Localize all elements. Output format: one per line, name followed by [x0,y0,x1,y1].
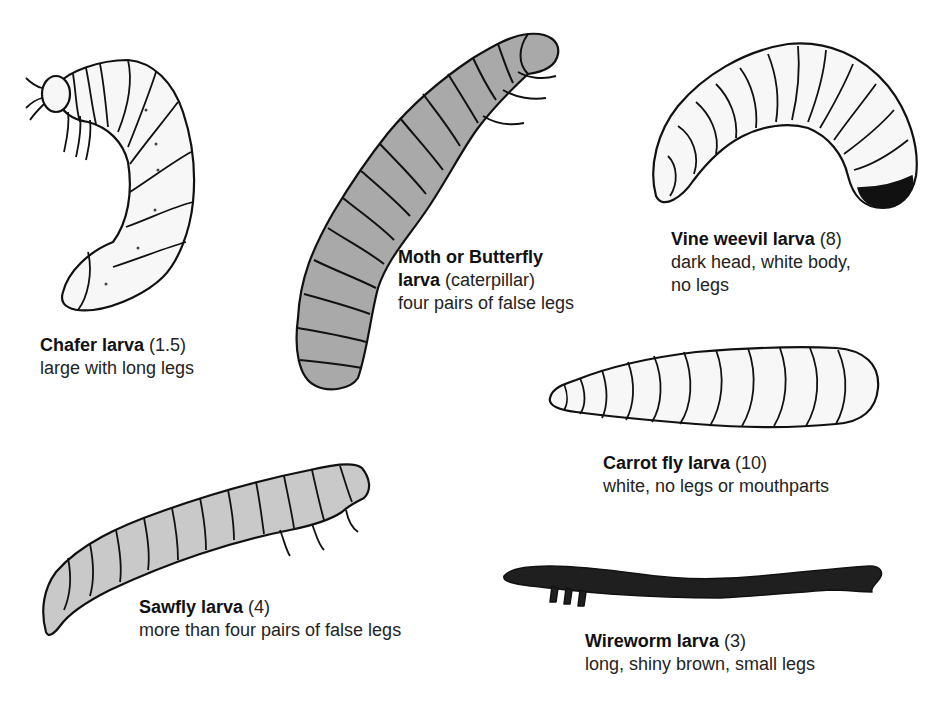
larva-description: long, shiny brown, small legs [585,653,815,676]
larva-name: Wireworm larva [585,631,719,651]
sawfly-larva-caption: Sawfly larva (4) more than four pairs of… [139,596,401,642]
vine-weevil-larva-illustration [648,36,923,216]
larva-name: Chafer larva [40,335,144,355]
larva-description: large with long legs [40,357,194,380]
carrot-fly-larva-illustration [546,344,886,434]
larva-size: (1.5) [149,335,186,355]
larva-size: (10) [735,453,767,473]
caterpillar-caption: Moth or Butterfly larva (caterpillar) fo… [398,246,574,315]
caterpillar-illustration [288,28,568,398]
larva-name: Vine weevil larva [671,229,815,249]
larva-name: Moth or Butterfly [398,247,543,267]
larva-size: (4) [248,597,270,617]
larva-description: white, no legs or mouthparts [603,475,829,498]
chafer-larva-icon [28,52,208,322]
larva-description: dark head, white body, [671,251,851,274]
larva-size: (caterpillar) [445,270,535,290]
wireworm-larva-illustration [500,562,885,612]
larva-description: more than four pairs of false legs [139,619,401,642]
wireworm-larva-icon [500,562,885,612]
wireworm-larva-caption: Wireworm larva (3) long, shiny brown, sm… [585,630,815,676]
larva-size: (8) [820,229,842,249]
larva-description: four pairs of false legs [398,292,574,315]
carrot-fly-larva-icon [546,344,886,434]
larva-name: Sawfly larva [139,597,243,617]
chafer-larva-caption: Chafer larva (1.5) large with long legs [40,334,194,380]
vine-weevil-larva-icon [648,36,923,216]
larva-description-line2: no legs [671,274,851,297]
larva-name: Carrot fly larva [603,453,730,473]
chafer-larva-illustration [28,52,208,322]
larva-name-line2: larva [398,270,440,290]
caterpillar-icon [288,28,568,398]
larva-size: (3) [724,631,746,651]
vine-weevil-larva-caption: Vine weevil larva (8) dark head, white b… [671,228,851,297]
carrot-fly-larva-caption: Carrot fly larva (10) white, no legs or … [603,452,829,498]
